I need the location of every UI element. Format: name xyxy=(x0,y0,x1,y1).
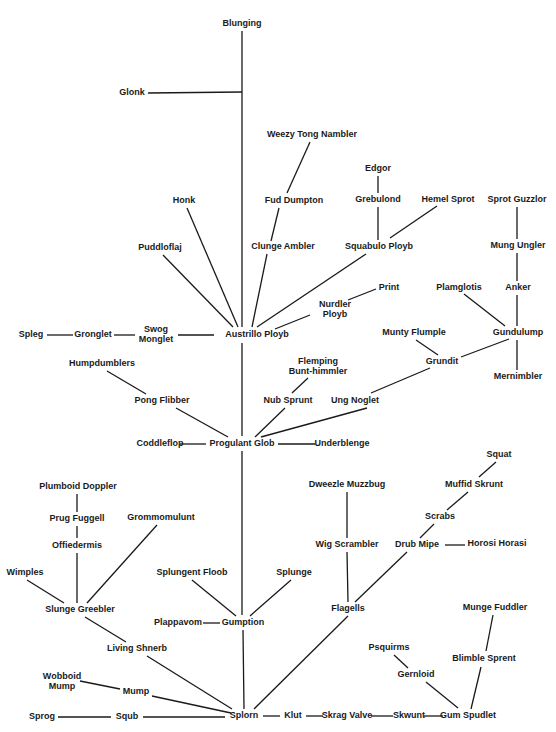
node-label-offiedermis: Offiedermis xyxy=(52,540,102,550)
node-label-dweezle: Dweezle Muzzbug xyxy=(309,479,386,489)
node-label-group: BlungingGlonkWeezy Tong NamblerEdgorFud … xyxy=(7,18,547,721)
node-label-squat: Squat xyxy=(486,449,511,459)
edge-line xyxy=(176,408,228,437)
edge-line xyxy=(394,655,408,668)
edge-line xyxy=(187,208,238,327)
node-label-anker: Anker xyxy=(505,282,531,292)
node-label-underblenge: Underblenge xyxy=(314,438,369,448)
node-label-weezy: Weezy Tong Nambler xyxy=(267,129,358,139)
node-label-puddloflaj: Puddloflaj xyxy=(138,242,182,252)
edge-line xyxy=(254,616,348,709)
node-label-squabulo: Squabulo Ployb xyxy=(345,241,414,251)
edge-line xyxy=(447,492,468,510)
edge-line xyxy=(426,682,458,708)
node-label-mernimbler: Mernimbler xyxy=(494,371,543,381)
node-label-gumspudlet: Gum Spudlet xyxy=(440,710,496,720)
edge-line xyxy=(257,254,366,327)
edge-line xyxy=(255,408,285,437)
edge-line xyxy=(252,254,267,327)
node-label-flemping: FlempingBunt-himmler xyxy=(289,356,348,376)
node-label-skragvalve: Skrag Valve xyxy=(322,710,373,720)
node-label-mump: Mump xyxy=(123,686,150,696)
node-label-livingshnerb: Living Shnerb xyxy=(107,643,168,653)
tree-diagram: BlungingGlonkWeezy Tong NamblerEdgorFud … xyxy=(0,0,556,732)
edge-line xyxy=(390,206,437,238)
node-label-plappavom: Plappavom xyxy=(154,617,202,627)
edge-line xyxy=(486,615,493,651)
edge-line xyxy=(27,580,64,603)
node-label-hemel: Hemel Sprot xyxy=(421,194,474,204)
edge-line xyxy=(87,525,157,603)
edge-line xyxy=(152,696,231,713)
node-label-gernloid: Gernloid xyxy=(397,669,434,679)
edge-line xyxy=(292,378,308,393)
node-label-clunge: Clunge Ambler xyxy=(251,241,315,251)
node-label-progulant: Progulant Glob xyxy=(210,438,275,448)
node-label-spleg: Spleg xyxy=(19,329,44,339)
node-label-wigscrambler: Wig Scrambler xyxy=(316,539,379,549)
edge-line xyxy=(243,630,244,709)
node-label-psquirms: Psquirms xyxy=(368,642,409,652)
edge-line xyxy=(261,408,367,437)
node-label-squb: Squb xyxy=(116,711,139,721)
node-label-blunging: Blunging xyxy=(223,18,262,28)
node-label-glonk: Glonk xyxy=(119,87,145,97)
node-label-austrillo: Austrillo Ployb xyxy=(225,329,289,339)
node-label-gronglet: Gronglet xyxy=(74,329,112,339)
node-label-slungegreebler: Slunge Greebler xyxy=(45,604,115,614)
node-label-grommomulunt: Grommomulunt xyxy=(127,512,195,522)
node-label-gumption: Gumption xyxy=(222,617,265,627)
node-label-nubsprunt: Nub Sprunt xyxy=(264,395,313,405)
node-label-honk: Honk xyxy=(173,195,196,205)
node-label-muntyflumple: Munty Flumple xyxy=(382,327,446,337)
node-label-plumboid: Plumboid Doppler xyxy=(39,481,117,491)
node-label-drubmipe: Drub Mipe xyxy=(395,539,439,549)
edge-line xyxy=(107,371,146,394)
node-label-print: Print xyxy=(379,282,400,292)
node-label-coddleflop: Coddleflop xyxy=(137,438,184,448)
node-label-prugfuggell: Prug Fuggell xyxy=(50,513,105,523)
edge-line xyxy=(348,289,376,300)
node-label-splorn: Splorn xyxy=(230,710,259,720)
edge-line xyxy=(416,340,438,355)
node-label-klut: Klut xyxy=(284,710,302,720)
edge-line xyxy=(147,656,232,709)
node-label-muffid: Muffid Skrunt xyxy=(445,479,503,489)
edge-line xyxy=(420,524,434,538)
node-label-gundulump: Gundulump xyxy=(493,327,544,337)
node-label-edgor: Edgor xyxy=(365,163,391,173)
edge-line xyxy=(479,462,496,477)
node-label-pongflibber: Pong Flibber xyxy=(135,395,190,405)
node-label-sprog: Sprog xyxy=(29,711,55,721)
edge-line xyxy=(271,208,279,241)
node-label-swog: SwogMonglet xyxy=(139,324,174,344)
node-label-mungungler: Mung Ungler xyxy=(491,240,546,250)
edge-line xyxy=(471,667,481,709)
node-label-scrabs: Scrabs xyxy=(425,511,455,521)
node-label-splungentfloob: Splungent Floob xyxy=(157,567,228,577)
node-label-grebulond: Grebulond xyxy=(355,194,401,204)
edge-line xyxy=(85,617,126,642)
node-label-sprotguzzlor: Sprot Guzzlor xyxy=(488,194,547,204)
tree-diagram-canvas: BlungingGlonkWeezy Tong NamblerEdgorFud … xyxy=(0,0,556,732)
node-label-wimples: Wimples xyxy=(7,567,44,577)
node-label-fud: Fud Dumpton xyxy=(265,195,323,205)
node-label-humpdumblers: Humpdumblers xyxy=(69,358,135,368)
edge-line xyxy=(287,142,310,193)
edge-line xyxy=(461,339,509,357)
node-label-plamglotis: Plamglotis xyxy=(436,282,482,292)
edge-line xyxy=(275,315,310,329)
node-label-splunge: Splunge xyxy=(276,567,312,577)
edge-line xyxy=(371,368,430,393)
node-label-skwunt: Skwunt xyxy=(393,710,425,720)
edge-line xyxy=(80,681,120,689)
edge-line xyxy=(250,580,291,616)
edge-line xyxy=(192,580,236,616)
node-label-mungefuddler: Munge Fuddler xyxy=(463,602,528,612)
node-label-horosi: Horosi Horasi xyxy=(467,538,526,548)
node-label-grundit: Grundit xyxy=(426,356,459,366)
node-label-wobboid: WobboidMump xyxy=(43,671,81,691)
node-label-blimblesprent: Blimble Sprent xyxy=(452,653,516,663)
node-label-nurdler: NurdlerPloyb xyxy=(319,299,352,319)
node-label-ungnoglet: Ung Noglet xyxy=(331,395,379,405)
